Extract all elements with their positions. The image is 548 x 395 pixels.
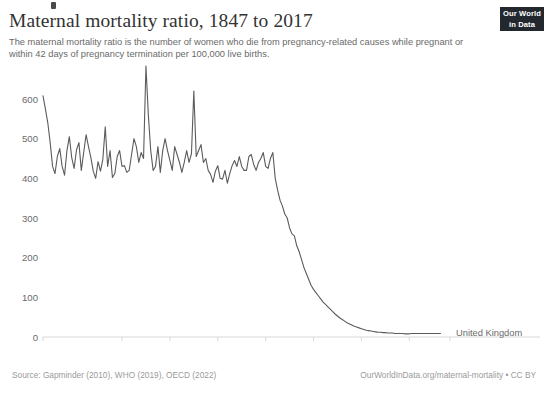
y-axis: 0100200300400500600 [22,94,540,343]
y-axis-tick-label: 500 [22,133,38,144]
x-axis-tick-label: 2017 [439,344,460,345]
line-chart-svg: 0100200300400500600 18471880190019201940… [0,60,548,345]
logo-line-1: Our World [500,8,544,19]
plot-area[interactable]: 0100200300400500600 18471880190019201940… [0,60,548,345]
x-axis-tick-label: 1920 [207,344,228,345]
x-axis-tick-label: 1960 [303,344,324,345]
footer-source: Source: Gapminder (2010), WHO (2019), OE… [12,370,216,380]
chart-header: Maternal mortality ratio, 1847 to 2017 T… [9,10,479,60]
x-axis-tick-label: 1900 [159,344,180,345]
x-axis-tick-label: 1980 [351,344,372,345]
our-world-in-data-logo[interactable]: Our World in Data [500,7,544,31]
chart-subtitle: The maternal mortality ratio is the numb… [9,36,471,60]
y-axis-tick-label: 300 [22,213,38,224]
chart-footer: Source: Gapminder (2010), WHO (2019), OE… [0,370,548,382]
x-axis-tick-label: 1880 [111,344,132,345]
x-axis-tick-label: 2000 [399,344,420,345]
x-axis-tick-label: 1847 [32,344,53,345]
y-axis-tick-label: 600 [22,94,38,105]
footer-link[interactable]: OurWorldInData.org/maternal-mortality • … [360,370,536,380]
x-axis: 184718801900192019401960198020002017 [32,337,460,345]
y-axis-tick-label: 0 [33,332,38,343]
x-axis-tick-label: 1940 [255,344,276,345]
y-axis-tick-label: 100 [22,292,38,303]
y-axis-tick-label: 200 [22,252,38,263]
series-end-labels: United Kingdom [456,328,522,338]
y-axis-tick-label: 400 [22,173,38,184]
series-line[interactable] [43,66,440,334]
series-end-label: United Kingdom [456,328,522,338]
top-artifact [51,2,56,9]
page-title: Maternal mortality ratio, 1847 to 2017 [9,10,479,32]
logo-line-2: in Data [500,19,544,30]
chart-card: Maternal mortality ratio, 1847 to 2017 T… [0,0,548,395]
data-series-group [43,66,440,334]
